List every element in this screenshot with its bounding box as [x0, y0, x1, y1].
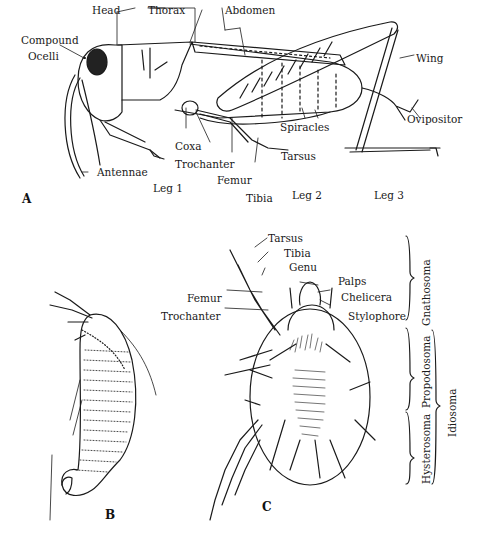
- mite-dorsal-illustration: [210, 236, 440, 520]
- label-propodosoma: Propodosoma: [420, 336, 432, 408]
- anatomy-figure: Head Thorax Abdomen Compound Ocelli Wing…: [0, 0, 480, 552]
- label-hysterosoma: Hysterosoma: [420, 414, 432, 484]
- label-c-genu: Genu: [289, 262, 317, 273]
- label-idiosoma: Idiosoma: [446, 389, 458, 437]
- label-c-tibia: Tibia: [284, 248, 311, 259]
- label-coxa: Coxa: [175, 141, 202, 152]
- compound-eye: [87, 49, 107, 75]
- figure-drawing: [0, 0, 480, 552]
- grasshopper-illustration: [60, 8, 440, 178]
- label-c-tarsus: Tarsus: [268, 233, 303, 244]
- panel-letter-c: C: [262, 500, 272, 514]
- label-wing: Wing: [416, 53, 443, 64]
- label-c-palps: Palps: [338, 276, 366, 287]
- label-spiracles: Spiracles: [280, 122, 329, 133]
- label-c-femur: Femur: [187, 293, 222, 304]
- label-trochanter: Trochanter: [175, 159, 234, 170]
- label-compound: Compound: [21, 35, 79, 46]
- label-leg3: Leg 3: [374, 190, 404, 201]
- label-ocelli: Ocelli: [28, 51, 59, 62]
- elongated-mite-illustration: [50, 292, 156, 520]
- panel-letter-b: B: [105, 508, 115, 522]
- label-gnathosoma: Gnathosoma: [420, 259, 432, 326]
- label-antennae: Antennae: [97, 167, 148, 178]
- label-c-stylophore: Stylophore: [348, 311, 406, 322]
- label-c-chelicera: Chelicera: [341, 292, 392, 303]
- panel-letter-a: A: [22, 192, 31, 206]
- label-tibia: Tibia: [246, 193, 273, 204]
- label-c-trochanter: Trochanter: [161, 311, 220, 322]
- label-ovipositor: Ovipositor: [407, 114, 462, 125]
- label-thorax: Thorax: [148, 5, 185, 16]
- label-head: Head: [92, 5, 120, 16]
- label-abdomen: Abdomen: [225, 5, 275, 16]
- label-leg1: Leg 1: [153, 183, 183, 194]
- label-tarsus: Tarsus: [281, 151, 316, 162]
- label-leg2: Leg 2: [292, 190, 322, 201]
- label-femur: Femur: [217, 175, 252, 186]
